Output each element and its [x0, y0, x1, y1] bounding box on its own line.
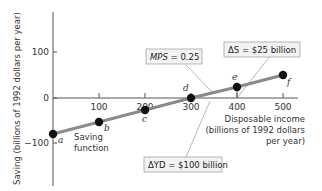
svg-text:Saving: Saving — [74, 132, 103, 142]
svg-text:e: e — [232, 72, 237, 82]
delta-s-leader-line — [238, 56, 270, 97]
y-axis-title: Saving (billions of 1992 dollars per yea… — [12, 12, 22, 185]
delta-yd-annotation: ΔYD = $100 billion — [144, 157, 228, 172]
svg-text:c: c — [142, 114, 147, 124]
svg-text:a: a — [58, 135, 63, 145]
y-tick-label: 100 — [32, 47, 49, 57]
point-b — [95, 118, 103, 126]
svg-text:ΔS = $25 billion: ΔS = $25 billion — [228, 45, 296, 55]
svg-text:function: function — [74, 143, 109, 153]
point-d — [187, 94, 195, 102]
point-e — [233, 83, 241, 91]
mps-leader-line — [186, 65, 212, 92]
x-axis-title: Disposable income (billions of 1992 doll… — [205, 114, 305, 146]
delta-s-annotation: ΔS = $25 billion — [224, 42, 300, 57]
svg-text:f: f — [286, 77, 292, 87]
x-tick-label: 400 — [228, 102, 245, 112]
saving-function-label: Saving function — [74, 132, 109, 153]
svg-text:ΔYD = $100 billion: ΔYD = $100 billion — [148, 160, 228, 170]
x-tick-label: 500 — [274, 102, 291, 112]
point-a — [49, 130, 57, 138]
svg-text:per year): per year) — [266, 136, 305, 146]
point-f — [279, 71, 287, 79]
svg-text:Disposable income: Disposable income — [225, 114, 305, 124]
svg-text:MPS = 0.25: MPS = 0.25 — [150, 52, 199, 62]
svg-text:d: d — [183, 83, 189, 93]
svg-text:(billions of 1992 dollars: (billions of 1992 dollars — [205, 125, 305, 135]
x-tick-label: 100 — [90, 102, 107, 112]
mps-annotation: MPS = 0.25 — [146, 49, 202, 64]
x-tick-label: 300 — [182, 102, 199, 112]
y-tick-label: −100 — [24, 138, 49, 148]
point-c — [141, 106, 149, 114]
svg-text:b: b — [104, 123, 110, 133]
saving-function-chart: 100 0 −100 100 200 300 400 500 Saving (b… — [0, 0, 322, 191]
y-tick-label: 0 — [43, 93, 49, 103]
